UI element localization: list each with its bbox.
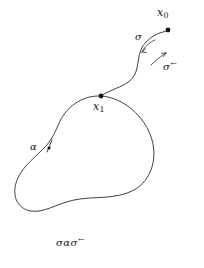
label-x1-subscript: 1	[100, 105, 105, 114]
homotopy-diagram-svg	[0, 0, 204, 268]
label-x0: x0	[157, 7, 169, 20]
path-sigma-curve	[101, 31, 167, 96]
label-sigma: σ	[135, 32, 142, 42]
label-alpha: α	[30, 142, 37, 152]
label-sigma-glyph: σ	[135, 31, 142, 42]
label-x0-subscript: 0	[164, 11, 169, 20]
loop-alpha-curve	[15, 96, 154, 211]
point-alpha-marker-dot	[47, 146, 50, 149]
label-sigma-reverse: σ←	[163, 60, 177, 72]
point-x0-dot	[166, 28, 171, 33]
caption-sigma-reverse: σ	[70, 237, 77, 248]
point-x1-dot	[99, 94, 104, 99]
label-alpha-glyph: α	[30, 141, 37, 152]
label-x1-base: x	[93, 100, 99, 113]
label-sigma-reverse-arrow: ←	[170, 59, 177, 68]
label-x0-base: x	[157, 6, 163, 19]
label-x1: x1	[93, 101, 105, 114]
figure-caption: σασ←	[56, 236, 85, 248]
figure-canvas: x0 x1 σ σ← α σασ←	[0, 0, 204, 268]
label-sigma-reverse-glyph: σ	[163, 61, 170, 72]
caption-sigma-reverse-arrow: ←	[78, 235, 85, 244]
